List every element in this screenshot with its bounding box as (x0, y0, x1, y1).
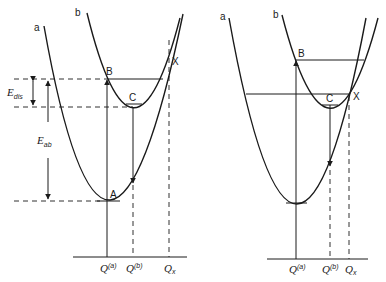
right-point-B: B (298, 48, 305, 59)
left-point-A: A (110, 189, 117, 200)
left-panel: a b B C A X Edis Eab Q(a) Q(b) Qx (6, 7, 187, 275)
right-panel: a b B C X Q(a) Q(b) Qx (220, 9, 378, 276)
right-qx-label: Qx (345, 263, 357, 276)
right-point-C: C (326, 93, 333, 104)
left-edis-label: Edis (6, 86, 23, 100)
right-q0b-label: Q(b) (322, 263, 339, 275)
left-eab-label: Eab (36, 134, 52, 148)
left-q0a-label: Q(a) (100, 262, 117, 274)
left-curve-a-label: a (34, 22, 40, 33)
diagram-canvas: a b B C A X Edis Eab Q(a) Q(b) Qx (0, 0, 386, 282)
left-point-X: X (172, 56, 179, 67)
right-point-X: X (353, 91, 360, 102)
left-point-B: B (106, 66, 113, 77)
left-point-C: C (129, 92, 136, 103)
right-q0a-label: Q(a) (289, 263, 306, 275)
right-curve-a-label: a (220, 11, 226, 22)
left-curve-b-label: b (75, 7, 81, 18)
right-curve-b-label: b (273, 9, 279, 20)
right-curve-a (229, 18, 366, 204)
left-q0b-label: Q(b) (126, 262, 143, 274)
left-qx-label: Qx (164, 262, 176, 275)
